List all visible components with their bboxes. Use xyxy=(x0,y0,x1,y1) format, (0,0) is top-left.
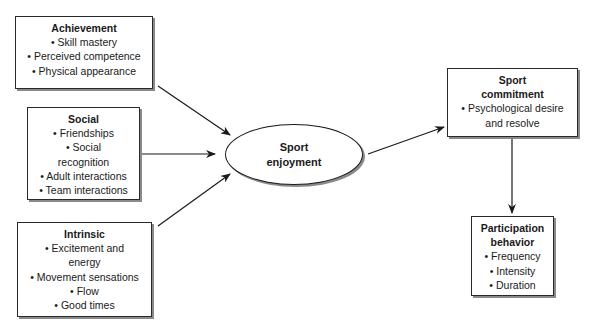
social-item: • Team interactions xyxy=(28,183,139,197)
social-box: Social • Friendships • Social recognitio… xyxy=(27,107,140,200)
social-item: • Social xyxy=(28,140,139,154)
intrinsic-item: • Excitement and xyxy=(18,241,151,255)
arrow-enjoyment-to-commitment xyxy=(368,127,444,154)
intrinsic-title: Intrinsic xyxy=(18,227,151,241)
arrow-achievement-to-enjoyment xyxy=(158,86,230,135)
intrinsic-box: Intrinsic • Excitement and energy • Move… xyxy=(17,222,152,317)
participation-item: • Intensity xyxy=(472,264,553,278)
achievement-box: Achievement • Skill mastery • Perceived … xyxy=(15,16,153,89)
participation-title-line: Participation xyxy=(472,221,553,235)
participation-behavior-box: Participation behavior • Frequency • Int… xyxy=(471,216,554,296)
achievement-title: Achievement xyxy=(16,21,152,35)
social-title: Social xyxy=(28,112,139,126)
intrinsic-item: • Good times xyxy=(18,298,151,312)
intrinsic-item: • Flow xyxy=(18,284,151,298)
commitment-item: and resolve xyxy=(448,116,577,130)
intrinsic-item: energy xyxy=(18,255,151,269)
participation-item: • Frequency xyxy=(472,249,553,263)
achievement-item: • Skill mastery xyxy=(16,35,152,49)
participation-item: • Duration xyxy=(472,278,553,292)
commitment-title-line: Sport xyxy=(448,73,577,87)
commitment-item: • Psychological desire xyxy=(448,101,577,115)
social-item: recognition xyxy=(28,155,139,169)
arrow-intrinsic-to-enjoyment xyxy=(158,174,230,226)
achievement-item: • Perceived competence xyxy=(16,49,152,63)
sport-commitment-diagram: Achievement • Skill mastery • Perceived … xyxy=(0,0,595,334)
sport-commitment-box: Sport commitment • Psychological desire … xyxy=(447,68,578,137)
participation-title-line: behavior xyxy=(472,235,553,249)
achievement-item: • Physical appearance xyxy=(16,64,152,78)
sport-enjoyment-ellipse: Sport enjoyment xyxy=(225,124,363,185)
enjoyment-title-line: Sport xyxy=(280,140,309,155)
social-item: • Friendships xyxy=(28,126,139,140)
intrinsic-item: • Movement sensations xyxy=(18,270,151,284)
social-item: • Adult interactions xyxy=(28,169,139,183)
commitment-title-line: commitment xyxy=(448,87,577,101)
enjoyment-title-line: enjoyment xyxy=(266,155,321,170)
